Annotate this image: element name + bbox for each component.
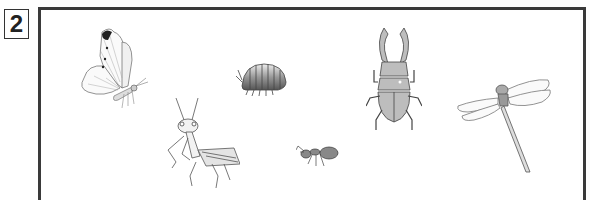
butterfly-illustration[interactable] — [74, 26, 154, 110]
pill-bug-illustration[interactable] — [234, 58, 290, 98]
stag-beetle-icon — [366, 26, 422, 130]
dragonfly-icon — [454, 76, 554, 174]
ant-icon — [296, 142, 340, 168]
pill-bug-icon — [234, 58, 290, 98]
praying-mantis-icon — [162, 96, 240, 188]
stag-beetle-illustration[interactable] — [366, 26, 422, 130]
dragonfly-illustration[interactable] — [454, 76, 554, 174]
butterfly-icon — [74, 26, 154, 110]
ant-illustration[interactable] — [296, 142, 340, 168]
praying-mantis-illustration[interactable] — [162, 96, 240, 188]
question-number: 2 — [4, 9, 29, 39]
